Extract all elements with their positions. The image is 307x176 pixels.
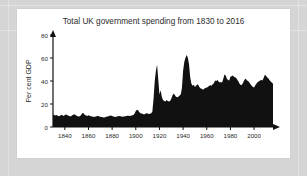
chart-plot-area: 0 20 40 60 80 Per cent GDP 1840186018801… (17, 9, 290, 158)
x-tick-label-1880: 1880 (105, 132, 119, 139)
x-tick-label-1920: 1920 (153, 132, 167, 139)
arrow-up-icon (50, 30, 56, 37)
y-axis-title: Per cent GDP (25, 59, 32, 103)
x-tick-label-1980: 1980 (224, 132, 238, 139)
background-texture-line-top (0, 5, 307, 6)
y-tick-label-20: 20 (41, 101, 48, 108)
x-tick-label-1860: 1860 (82, 132, 96, 139)
y-tick-label-0: 0 (45, 124, 49, 131)
background-texture-line-left (8, 0, 9, 176)
background-texture-line-right (298, 0, 299, 176)
arrow-right-icon (273, 124, 280, 130)
x-tick-label-2000: 2000 (247, 132, 261, 139)
x-tick-label-1900: 1900 (129, 132, 143, 139)
y-tick-label-60: 60 (41, 55, 48, 62)
area-chart-svg: 0 20 40 60 80 Per cent GDP 1840186018801… (17, 9, 290, 158)
x-tick-label-1940: 1940 (176, 132, 190, 139)
figure-card: Total UK government spending from 1830 t… (17, 9, 290, 158)
spending-area-series (53, 55, 273, 127)
y-tick-label-80: 80 (41, 32, 48, 39)
y-tick-label-40: 40 (41, 78, 48, 85)
x-tick-label-1840: 1840 (58, 132, 72, 139)
x-axis-tick-labels: 184018601880190019201940196019802000 (58, 132, 262, 139)
x-tick-label-1960: 1960 (200, 132, 214, 139)
